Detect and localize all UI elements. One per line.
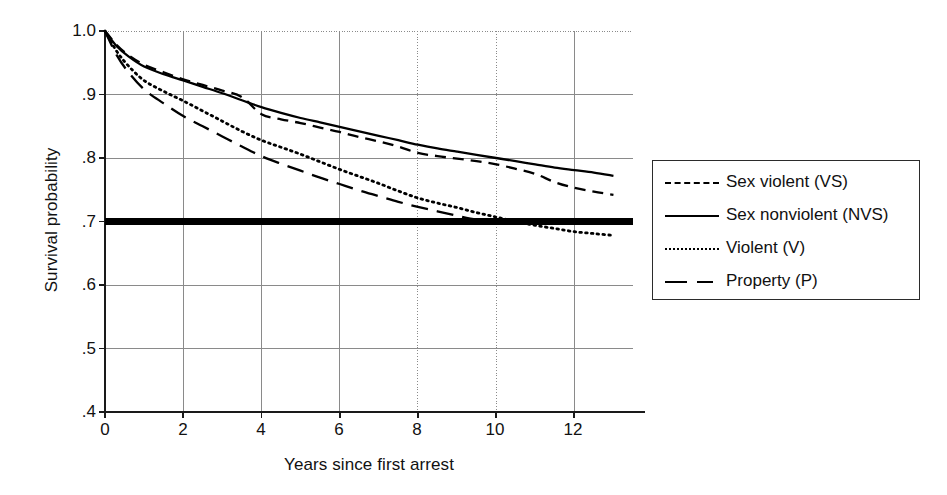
series-line-nvs bbox=[105, 31, 613, 176]
legend-box: Sex violent (VS) Sex nonviolent (NVS) Vi… bbox=[652, 160, 920, 300]
chart-figure: Survival probability Years since first a… bbox=[0, 0, 947, 495]
legend-item-violent[interactable]: Violent (V) bbox=[665, 233, 911, 263]
series-layer bbox=[105, 31, 613, 235]
legend-label-sex-violent: Sex violent (VS) bbox=[726, 172, 848, 192]
legend-swatch-dotted bbox=[665, 239, 719, 257]
legend-item-sex-nonviolent[interactable]: Sex nonviolent (NVS) bbox=[665, 200, 911, 230]
legend-swatch-dashed bbox=[665, 173, 719, 191]
legend-swatch-solid bbox=[665, 206, 719, 224]
legend-label-property: Property (P) bbox=[726, 271, 818, 291]
series-line-v bbox=[105, 31, 613, 235]
legend-item-property[interactable]: Property (P) bbox=[665, 266, 911, 296]
legend-swatch-long-dash bbox=[665, 272, 719, 290]
legend-label-violent: Violent (V) bbox=[726, 238, 805, 258]
series-line-p bbox=[105, 31, 496, 222]
series-line-vs bbox=[105, 31, 613, 195]
legend-label-sex-nonviolent: Sex nonviolent (NVS) bbox=[726, 205, 889, 225]
legend-item-sex-violent[interactable]: Sex violent (VS) bbox=[665, 167, 911, 197]
